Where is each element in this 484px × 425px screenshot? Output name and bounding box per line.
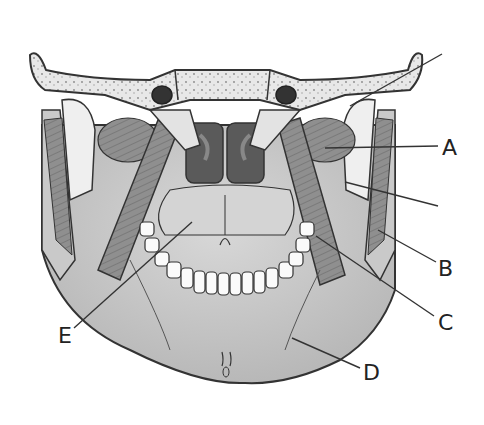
label-C: C (438, 312, 453, 334)
palate (159, 185, 294, 235)
left-canal (152, 86, 172, 104)
label-A: A (442, 137, 457, 159)
anatomy-figure (0, 0, 484, 425)
label-E: E (58, 325, 72, 347)
label-B: B (438, 258, 453, 280)
label-D: D (363, 362, 380, 384)
right-canal (276, 86, 296, 104)
